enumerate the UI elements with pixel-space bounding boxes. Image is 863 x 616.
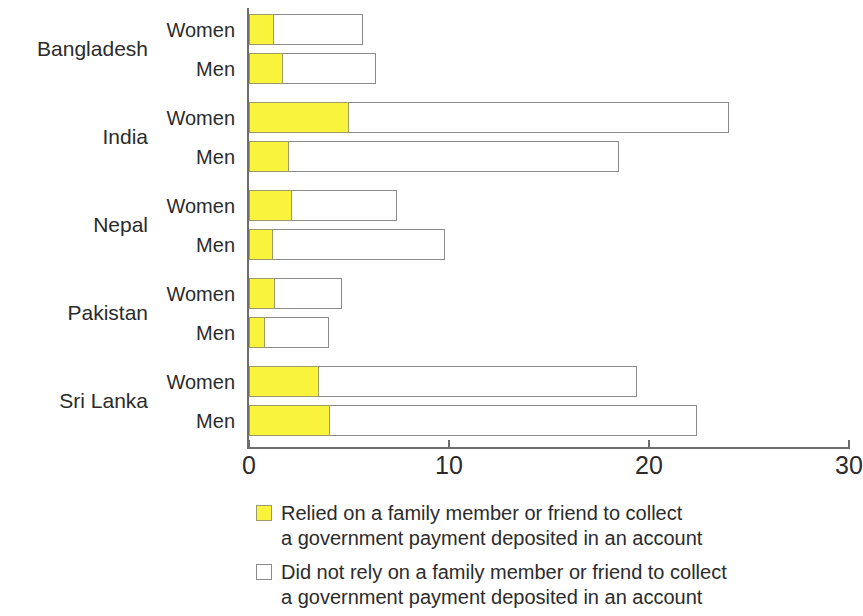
series-label-men: Men [196,147,235,167]
bar-sri-lanka-men [249,405,697,436]
bar-segment-relied [249,405,330,436]
bar-nepal-men [249,229,445,260]
plot-area: BangladeshIndiaNepalPakistanSri Lanka Wo… [0,0,860,452]
legend-swatch-relied [256,505,272,521]
bar-segment-relied [249,53,283,84]
x-axis-tick-label-20: 20 [635,453,663,478]
country-label-bangladesh: Bangladesh [37,38,148,59]
bar-segment-relied [249,141,289,172]
bar-india-women [249,102,729,133]
bar-bangladesh-men [249,53,376,84]
bar-segment-not-relied [292,190,397,221]
country-label-nepal: Nepal [93,214,148,235]
bar-segment-not-relied [275,278,342,309]
bar-segment-not-relied [274,14,363,45]
bar-segment-relied [249,190,292,221]
bar-segment-not-relied [319,366,637,397]
legend-label-line2: a government payment deposited in an acc… [281,585,727,610]
series-label-women: Women [166,196,235,216]
series-label-women: Women [166,20,235,40]
country-label-sri-lanka: Sri Lanka [59,390,148,411]
series-label-men: Men [196,323,235,343]
bar-segment-relied [249,278,275,309]
series-label-women: Women [166,284,235,304]
bar-segment-not-relied [273,229,445,260]
x-axis-line [247,447,849,449]
bar-segment-relied [249,317,265,348]
legend-label-line2: a government payment deposited in an acc… [281,526,702,551]
bar-segment-not-relied [349,102,729,133]
x-axis-tick-label-30: 30 [835,453,863,478]
series-label-men: Men [196,59,235,79]
series-label-women: Women [166,372,235,392]
bar-segment-not-relied [289,141,619,172]
bar-segment-not-relied [283,53,376,84]
bar-segment-not-relied [265,317,329,348]
bar-sri-lanka-women [249,366,637,397]
x-axis-tick-10 [448,440,450,449]
legend-label-not-relied: Did not rely on a family member or frien… [281,560,727,610]
y-axis-line [247,8,249,448]
legend-item-not-relied: Did not rely on a family member or frien… [256,560,856,610]
series-label-women: Women [166,108,235,128]
legend-swatch-not-relied [256,564,272,580]
country-label-pakistan: Pakistan [67,302,148,323]
bar-segment-relied [249,102,349,133]
series-label-men: Men [196,411,235,431]
legend-label-relied: Relied on a family member or friend to c… [281,501,702,551]
legend-label-line1: Did not rely on a family member or frien… [281,561,727,583]
bar-bangladesh-women [249,14,363,45]
x-axis-tick-20 [648,440,650,449]
bar-segment-not-relied [330,405,697,436]
x-axis-tick-0 [248,440,250,449]
bar-pakistan-men [249,317,329,348]
series-label-men: Men [196,235,235,255]
legend-item-relied: Relied on a family member or friend to c… [256,501,856,551]
bar-pakistan-women [249,278,342,309]
bar-india-men [249,141,619,172]
chart-legend: Relied on a family member or friend to c… [256,501,856,616]
x-axis-tick-label-10: 10 [435,453,463,478]
x-axis-tick-label-0: 0 [242,453,256,478]
bar-segment-relied [249,14,274,45]
bar-segment-relied [249,366,319,397]
legend-label-line1: Relied on a family member or friend to c… [281,502,682,524]
x-axis-tick-30 [848,440,850,449]
bar-nepal-women [249,190,397,221]
country-label-india: India [102,126,148,147]
bar-segment-relied [249,229,273,260]
